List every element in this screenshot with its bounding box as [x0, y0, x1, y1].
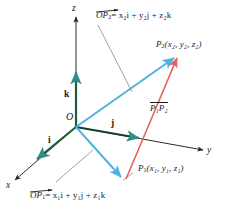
equation-op2: OP2= x₂i + y₂j + z₂k: [96, 10, 171, 21]
op1-vector-overarrow: OP1: [30, 190, 45, 201]
op2-rhs: = x₂i + y₂j + z₂k: [111, 10, 171, 20]
diagram-canvas: [0, 0, 229, 209]
leader-line-op1: [56, 150, 93, 182]
leader-line-op2: [98, 25, 132, 92]
x-axis-label: x: [6, 181, 10, 191]
p1p2-text: P₁P₂: [150, 103, 168, 113]
j-hat-label: j: [111, 119, 114, 129]
op2-head-subscript: 2: [108, 14, 111, 20]
op1-rhs: = x₁i + y₁j + z₁k: [45, 190, 105, 200]
origin-label: O: [66, 112, 73, 122]
vector-p1p2-arrow: [126, 58, 177, 179]
point-p2-coords: x₂, y₂, z₂: [168, 39, 199, 49]
op2-head: OP: [96, 10, 108, 20]
z-axis-label: z: [72, 4, 76, 14]
k-hat-label: k: [64, 90, 69, 100]
p1p2-overbar: [150, 102, 168, 103]
vector-op2: [76, 58, 174, 127]
point-p2-close-paren: ): [199, 39, 202, 49]
i-hat-vector: [37, 127, 76, 159]
vector-p1p2-label: P₁P₂: [150, 104, 168, 113]
i-hat-label: i: [48, 136, 51, 146]
op1-head-subscript: 1: [42, 194, 45, 200]
op2-vector-overarrow: OP2: [96, 10, 111, 21]
point-p2-label: P2(x₂, y₂, z₂): [156, 40, 202, 50]
p1p2-overbar-wrap: P₁P₂: [150, 104, 168, 113]
equation-op1: OP1= x₁i + y₁j + z₁k: [30, 190, 105, 201]
y-axis-label: y: [207, 146, 211, 156]
vector-diagram-figure: z y x O k j i P2(x₂, y₂, z₂) P1(x₁, y₁, …: [0, 0, 229, 209]
point-p1-coords: x₁, y₁, z₁: [150, 163, 181, 173]
point-p1-label: P1(x₁, y₁, z₁): [138, 164, 184, 174]
point-p1-close-paren: ): [181, 163, 184, 173]
op1-head: OP: [30, 190, 42, 200]
